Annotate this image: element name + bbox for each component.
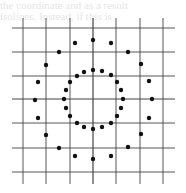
dot	[147, 79, 151, 83]
dot	[62, 97, 66, 101]
dot	[109, 73, 113, 77]
dot	[33, 98, 37, 102]
dot	[75, 121, 79, 125]
dot	[64, 106, 68, 110]
dot	[64, 88, 68, 92]
dot	[44, 133, 48, 137]
dot	[91, 127, 95, 131]
dot	[36, 116, 40, 120]
dot	[91, 68, 95, 72]
dot	[57, 50, 61, 54]
dot	[126, 50, 130, 54]
dot	[109, 41, 113, 45]
dot	[119, 88, 123, 92]
dot	[44, 63, 48, 67]
dot	[68, 80, 72, 84]
dot	[57, 146, 61, 150]
dot	[126, 145, 130, 149]
dot	[139, 132, 143, 136]
dot	[109, 121, 113, 125]
dot	[109, 154, 113, 158]
dot	[75, 74, 79, 78]
dot	[36, 80, 40, 84]
dot	[82, 70, 86, 74]
dot	[121, 97, 125, 101]
dot	[139, 62, 143, 66]
dot	[68, 114, 72, 118]
dot	[91, 157, 95, 161]
dot	[100, 125, 104, 129]
dot	[82, 125, 86, 129]
dot-grid-diagram	[0, 0, 186, 193]
dot	[73, 154, 77, 158]
dot	[150, 97, 154, 101]
dot	[91, 38, 95, 42]
dot	[147, 116, 151, 120]
dot	[115, 114, 119, 118]
dot	[119, 106, 123, 110]
dot	[73, 41, 77, 45]
dot	[100, 69, 104, 73]
dot	[115, 80, 119, 84]
